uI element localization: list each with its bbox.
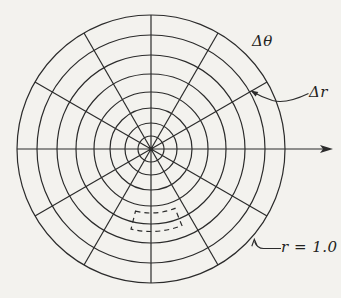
delta-r-label: Δr [309,85,328,100]
polar-grid-figure: Δθ Δr r = 1.0 [0,0,341,298]
delta-theta-label: Δθ [252,34,273,49]
r-boundary-label: r = 1.0 [281,240,338,255]
center-dot [149,147,154,152]
